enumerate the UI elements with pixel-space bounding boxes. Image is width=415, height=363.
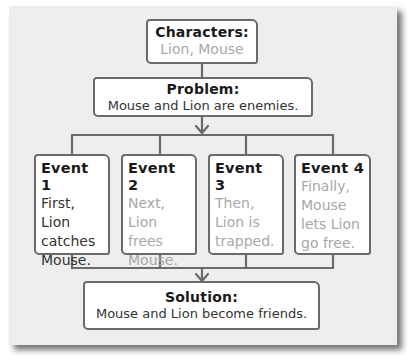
problem-text: Mouse and Lion are enemies. bbox=[95, 98, 311, 114]
event-4-line: Mouse bbox=[301, 196, 364, 215]
event-2-line: Lion bbox=[128, 213, 190, 232]
event-1-heading: Event 1 bbox=[41, 160, 103, 194]
event-4-line: lets Lion bbox=[301, 215, 364, 234]
event-4-line: Finally, bbox=[301, 177, 364, 196]
characters-heading: Characters: bbox=[148, 24, 256, 41]
event-2-heading: Event 2 bbox=[128, 160, 190, 194]
problem-heading: Problem: bbox=[95, 81, 311, 98]
event-1-line: Mouse. bbox=[41, 251, 103, 270]
event-1-line: First, bbox=[41, 194, 103, 213]
event-1-line: catches bbox=[41, 232, 103, 251]
event-3-line: trapped. bbox=[215, 232, 277, 251]
event-2-box: Event 2 Next, Lion frees Mouse. bbox=[121, 154, 197, 255]
event-4-line: go free. bbox=[301, 234, 364, 253]
event-2-line: Next, bbox=[128, 194, 190, 213]
event-3-box: Event 3 Then, Lion is trapped. bbox=[208, 154, 284, 255]
event-3-line: Lion is bbox=[215, 213, 277, 232]
solution-text: Mouse and Lion become friends. bbox=[85, 306, 318, 322]
problem-box: Problem: Mouse and Lion are enemies. bbox=[93, 77, 313, 117]
event-3-line: Then, bbox=[215, 194, 277, 213]
event-2-line: Mouse. bbox=[128, 251, 190, 270]
event-2-line: frees bbox=[128, 232, 190, 251]
solution-heading: Solution: bbox=[85, 289, 318, 306]
solution-box: Solution: Mouse and Lion become friends. bbox=[83, 281, 320, 330]
event-1-box: Event 1 First, Lion catches Mouse. bbox=[34, 154, 110, 255]
characters-text: Lion, Mouse bbox=[148, 41, 256, 57]
characters-box: Characters: Lion, Mouse bbox=[146, 19, 258, 64]
event-4-box: Event 4 Finally, Mouse lets Lion go free… bbox=[294, 154, 371, 255]
event-1-line: Lion bbox=[41, 213, 103, 232]
event-3-heading: Event 3 bbox=[215, 160, 277, 194]
event-4-heading: Event 4 bbox=[301, 160, 364, 177]
